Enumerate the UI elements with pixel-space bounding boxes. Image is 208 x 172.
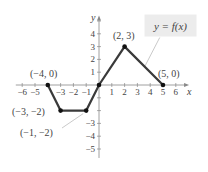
x-axis-label: x xyxy=(186,86,192,97)
y-tick-label: 4 xyxy=(91,29,96,39)
x-tick-label: 3 xyxy=(135,87,140,97)
leader-line xyxy=(145,37,160,66)
y-tick-label: 1 xyxy=(91,67,96,77)
x-tick-label: −5 xyxy=(30,87,40,97)
point-label: (2, 3) xyxy=(113,30,135,42)
curve-path xyxy=(48,47,163,111)
data-point xyxy=(46,83,51,88)
data-point xyxy=(84,108,89,113)
data-point xyxy=(122,44,127,49)
y-axis-arrow-icon xyxy=(97,15,101,20)
leader-line xyxy=(62,114,83,128)
x-tick-label: −3 xyxy=(56,87,66,97)
data-point xyxy=(161,83,166,88)
x-tick-label: −1 xyxy=(81,87,91,97)
data-point xyxy=(97,83,102,88)
x-tick-label: 4 xyxy=(148,87,153,97)
x-tick-label: 2 xyxy=(122,87,127,97)
x-tick-label: 5 xyxy=(161,87,166,97)
y-tick-label: 3 xyxy=(91,42,96,52)
y-tick-label: 2 xyxy=(91,54,96,64)
function-label-box: y = f(x) xyxy=(144,14,197,37)
x-tick-label: 1 xyxy=(110,87,115,97)
y-tick-label: −5 xyxy=(85,144,95,154)
x-tick-label: −2 xyxy=(69,87,79,97)
point-labels: (−4, 0)(−3, −2)(−1, −2)(2, 3)(5, 0) xyxy=(12,30,180,139)
function-curve xyxy=(46,44,166,113)
y-tick-label: −4 xyxy=(85,131,95,141)
x-tick-label: −6 xyxy=(17,87,27,97)
point-label: (−1, −2) xyxy=(20,127,53,139)
y-tick-label: −3 xyxy=(85,118,95,128)
leader-lines xyxy=(62,37,160,128)
data-point xyxy=(58,108,63,113)
point-label: (−4, 0) xyxy=(30,68,57,80)
function-graph: −6−5−3−2−11234564321−3−4−5xy (−4, 0)(−3,… xyxy=(0,0,208,172)
y-axis-label: y xyxy=(90,12,96,23)
function-label: y = f(x) xyxy=(153,20,187,33)
x-tick-label: 6 xyxy=(174,87,179,97)
point-label: (5, 0) xyxy=(158,68,180,80)
point-label: (−3, −2) xyxy=(12,106,45,118)
